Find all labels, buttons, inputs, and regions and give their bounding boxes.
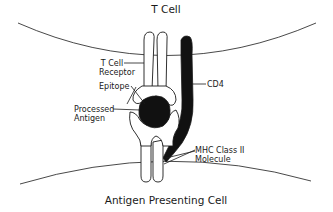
processed-antigen	[139, 96, 170, 128]
mhc-label-line2: Molecule	[195, 155, 231, 164]
epitope-label: Epitope	[99, 82, 129, 91]
tcell-apc-diagram: T Cell Antigen Presenting Cell T Cell Re…	[0, 0, 333, 212]
antigen-label-line1: Processed	[74, 105, 114, 114]
tcr-label-line2: Receptor	[99, 68, 136, 77]
apc-membrane	[20, 161, 311, 184]
t-cell-label: T Cell	[150, 3, 180, 15]
t-cell-receptor	[133, 32, 176, 105]
antigen-leader-line	[113, 109, 140, 110]
mhc-label-line1: MHC Class II	[195, 146, 244, 155]
antigen-label-line2: Antigen	[74, 114, 105, 123]
cd4-label: CD4	[207, 80, 224, 89]
tcr-label-line1: T Cell	[100, 59, 123, 68]
apc-label: Antigen Presenting Cell	[105, 194, 228, 206]
